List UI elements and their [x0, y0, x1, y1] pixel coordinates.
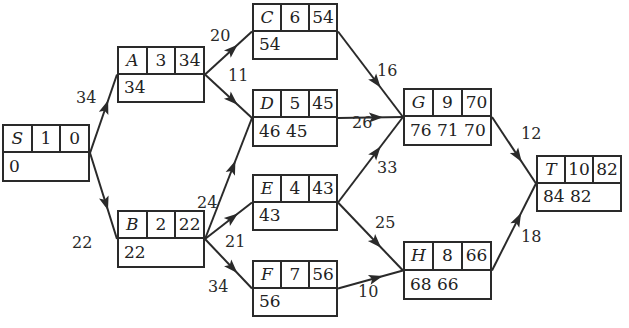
node-duration: 1 [31, 126, 60, 151]
edge-weight-label: 33 [377, 160, 397, 176]
node-c: C65454 [252, 3, 338, 60]
node-name: A [119, 48, 146, 73]
arrowhead-icon [510, 211, 525, 228]
node-e: E44343 [252, 174, 338, 231]
node-times: 68 66 [405, 271, 490, 299]
edge-weight-label: 24 [197, 195, 217, 211]
node-value: 82 [592, 157, 620, 182]
edge-s-b [90, 153, 117, 239]
node-header-row: C654 [254, 5, 336, 32]
edge-weight-label: 34 [208, 279, 228, 295]
node-duration: 8 [432, 243, 461, 269]
node-value: 66 [461, 243, 490, 269]
edge-weight-label: 16 [377, 63, 397, 79]
node-header-row: S10 [4, 126, 88, 153]
node-value: 45 [308, 91, 336, 116]
node-times: 22 [119, 239, 203, 266]
node-value: 34 [174, 48, 203, 73]
node-d: D54546 45 [252, 89, 338, 147]
edge-weight-label: 22 [72, 235, 92, 251]
edge-weight-label: 26 [352, 115, 372, 131]
edge-weight-label: 10 [358, 284, 378, 300]
edge-weight-label: 18 [521, 229, 541, 245]
node-times: 56 [254, 289, 336, 316]
node-name: H [405, 243, 432, 269]
node-value: 54 [308, 5, 336, 30]
node-name: B [119, 212, 146, 237]
node-times: 0 [4, 153, 88, 180]
node-times: 84 82 [538, 184, 620, 211]
node-header-row: T1082 [538, 157, 620, 184]
node-times: 76 71 70 [405, 117, 490, 144]
node-duration: 5 [280, 91, 308, 116]
node-header-row: G970 [405, 90, 490, 117]
node-s: S100 [2, 124, 90, 182]
node-value: 43 [308, 176, 336, 201]
node-duration: 7 [280, 262, 308, 287]
node-header-row: B222 [119, 212, 203, 239]
node-times: 43 [254, 203, 336, 230]
node-times: 54 [254, 32, 336, 59]
node-duration: 9 [432, 90, 461, 115]
node-name: T [538, 157, 564, 182]
edge-s-a [90, 75, 117, 154]
node-name: C [254, 5, 280, 30]
edge-weight-label: 21 [225, 234, 245, 250]
edge-weight-label: 12 [521, 126, 541, 142]
node-a: A33434 [117, 46, 205, 103]
node-times: 46 45 [254, 118, 336, 145]
edge-weight-label: 34 [76, 90, 96, 106]
node-header-row: H866 [405, 243, 490, 271]
node-f: F75656 [252, 260, 338, 317]
node-name: E [254, 176, 280, 201]
node-value: 22 [174, 212, 203, 237]
edge-weight-label: 11 [228, 68, 248, 84]
node-times: 34 [119, 75, 203, 102]
node-name: G [405, 90, 432, 115]
node-duration: 3 [146, 48, 175, 73]
arrowhead-icon [510, 147, 526, 164]
arrowhead-icon [99, 99, 113, 115]
node-value: 56 [308, 262, 336, 287]
node-header-row: E443 [254, 176, 336, 203]
node-header-row: D545 [254, 91, 336, 118]
node-header-row: A334 [119, 48, 203, 75]
node-value: 0 [59, 126, 88, 151]
node-duration: 2 [146, 212, 175, 237]
node-name: S [4, 126, 31, 151]
node-duration: 4 [280, 176, 308, 201]
node-duration: 6 [280, 5, 308, 30]
node-name: D [254, 91, 280, 116]
edge-weight-label: 20 [210, 28, 230, 44]
node-b: B22222 [117, 210, 205, 268]
node-duration: 10 [564, 157, 592, 182]
node-name: F [254, 262, 280, 287]
node-header-row: F756 [254, 262, 336, 289]
edge-weight-label: 25 [375, 215, 395, 231]
node-t: T108284 82 [536, 155, 622, 212]
arrowhead-icon [226, 159, 240, 176]
node-value: 70 [461, 90, 490, 115]
node-g: G97076 71 70 [403, 88, 492, 146]
node-h: H86668 66 [403, 241, 492, 300]
arrowhead-icon [99, 195, 113, 211]
